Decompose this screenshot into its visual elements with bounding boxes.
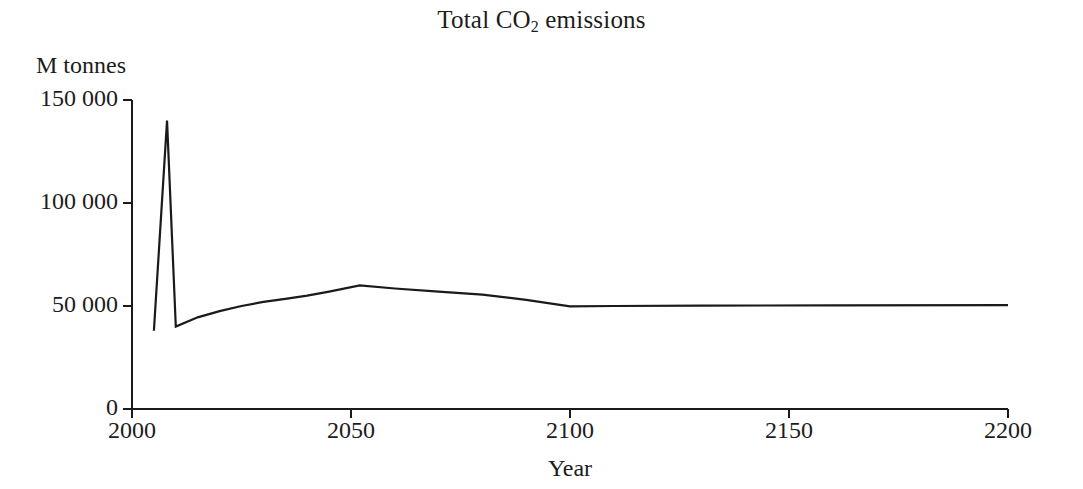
chart-figure: Total CO2 emissions M tonnes 150 000 100… [0,0,1083,489]
plot-area [0,0,1083,489]
x-axis-ticks [132,409,1008,418]
axis-lines [132,100,1008,409]
emissions-line [154,121,1008,331]
y-axis-ticks [123,100,132,409]
data-series-group [154,121,1008,331]
